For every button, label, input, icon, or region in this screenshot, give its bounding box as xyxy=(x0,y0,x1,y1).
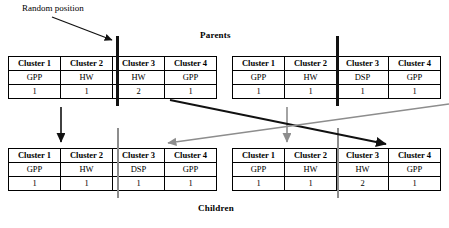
task-cell: GPP xyxy=(233,71,285,85)
task-cell: GPP xyxy=(389,71,441,85)
column-header: Cluster 4 xyxy=(389,57,441,71)
count-cell: 1 xyxy=(285,177,337,191)
column-header: Cluster 3 xyxy=(337,57,389,71)
column-header: Cluster 4 xyxy=(165,149,217,163)
count-cell: 1 xyxy=(9,177,61,191)
crossover-cut-bar-child-right xyxy=(337,128,339,198)
column-header: Cluster 1 xyxy=(9,57,61,71)
children-title: Children xyxy=(198,203,234,213)
chromosome-parent-left: Cluster 1 Cluster 2 Cluster 3 Cluster 4 … xyxy=(8,56,217,99)
column-header: Cluster 2 xyxy=(285,149,337,163)
column-header: Cluster 3 xyxy=(113,57,165,71)
column-header: Cluster 4 xyxy=(165,57,217,71)
table-row-header: Cluster 1 Cluster 2 Cluster 3 Cluster 4 xyxy=(9,149,217,163)
column-header: Cluster 1 xyxy=(233,57,285,71)
random-position-pointer-arrow xyxy=(52,17,112,40)
table-row-task: GPP HW HW GPP xyxy=(9,71,217,85)
column-header: Cluster 2 xyxy=(61,149,113,163)
column-header: Cluster 2 xyxy=(61,57,113,71)
count-cell: 1 xyxy=(233,177,285,191)
count-cell: 1 xyxy=(389,177,441,191)
task-cell: GPP xyxy=(165,163,217,177)
task-cell: GPP xyxy=(9,71,61,85)
random-position-annotation: Random position xyxy=(22,3,84,13)
crossover-diagram: Random position Parents Children Cluster… xyxy=(0,0,449,228)
count-cell: 1 xyxy=(113,177,165,191)
count-cell: 1 xyxy=(165,177,217,191)
table-row-task: GPP HW DSP GPP xyxy=(9,163,217,177)
task-cell: HW xyxy=(113,71,165,85)
column-header: Cluster 2 xyxy=(285,57,337,71)
crossover-cut-bar-parent-right xyxy=(336,36,339,106)
column-header: Cluster 3 xyxy=(113,149,165,163)
count-cell: 1 xyxy=(337,85,389,99)
count-cell: 1 xyxy=(61,85,113,99)
crossover-cut-bar-parent-left xyxy=(116,36,119,106)
task-cell: HW xyxy=(61,71,113,85)
table-row-header: Cluster 1 Cluster 2 Cluster 3 Cluster 4 xyxy=(9,57,217,71)
task-cell: HW xyxy=(337,163,389,177)
crossover-cut-bar-child-left xyxy=(117,128,119,198)
crossover-arrow-right-to-left xyxy=(168,104,449,143)
task-cell: GPP xyxy=(233,163,285,177)
count-cell: 1 xyxy=(61,177,113,191)
column-header: Cluster 1 xyxy=(233,149,285,163)
table-row-count: 1 1 1 1 xyxy=(9,177,217,191)
count-cell: 2 xyxy=(113,85,165,99)
chromosome-child-left: Cluster 1 Cluster 2 Cluster 3 Cluster 4 … xyxy=(8,148,217,191)
task-cell: GPP xyxy=(9,163,61,177)
column-header: Cluster 1 xyxy=(9,149,61,163)
crossover-arrow-left-to-right xyxy=(170,100,386,144)
table-row-count: 1 1 2 1 xyxy=(9,85,217,99)
column-header: Cluster 3 xyxy=(337,149,389,163)
count-cell: 1 xyxy=(233,85,285,99)
count-cell: 1 xyxy=(389,85,441,99)
task-cell: GPP xyxy=(389,163,441,177)
count-cell: 1 xyxy=(285,85,337,99)
count-cell: 2 xyxy=(337,177,389,191)
task-cell: DSP xyxy=(113,163,165,177)
task-cell: HW xyxy=(285,71,337,85)
parents-title: Parents xyxy=(200,30,231,40)
count-cell: 1 xyxy=(165,85,217,99)
column-header: Cluster 4 xyxy=(389,149,441,163)
task-cell: GPP xyxy=(165,71,217,85)
task-cell: HW xyxy=(285,163,337,177)
task-cell: HW xyxy=(61,163,113,177)
task-cell: DSP xyxy=(337,71,389,85)
count-cell: 1 xyxy=(9,85,61,99)
